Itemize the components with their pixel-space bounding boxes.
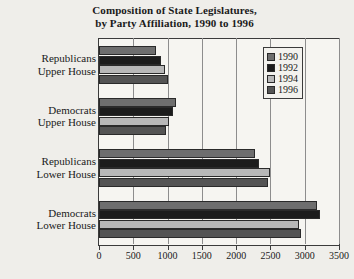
category-label-line: Lower House	[0, 168, 96, 181]
bar	[99, 107, 173, 116]
legend-item: 1990	[267, 51, 298, 62]
legend-label: 1994	[278, 73, 298, 84]
bar	[99, 75, 168, 84]
category-label-line: Upper House	[0, 65, 96, 78]
chart-legend: 1990199219941996	[263, 47, 303, 99]
category-label: DemocratsLower House	[0, 207, 96, 232]
legend-item: 1992	[267, 62, 298, 73]
bar	[99, 56, 161, 65]
x-tick-label: 3500	[319, 250, 354, 261]
legend-swatch	[267, 53, 275, 61]
category-label: RepublicansLower House	[0, 155, 96, 180]
bar	[99, 201, 317, 210]
chart-title-line-1: Composition of State Legislatures,	[0, 4, 349, 17]
category-label-line: Democrats	[0, 104, 96, 117]
bar	[99, 178, 268, 187]
bar	[99, 117, 169, 126]
chart-title: Composition of State Legislatures, by Pa…	[0, 4, 349, 30]
bar	[99, 149, 255, 158]
bar	[99, 229, 301, 238]
bar	[99, 168, 270, 177]
legend-label: 1990	[278, 51, 298, 62]
category-label: RepublicansUpper House	[0, 52, 96, 77]
legend-swatch	[267, 64, 275, 72]
bar	[99, 220, 299, 229]
category-label-line: Republicans	[0, 155, 96, 168]
category-label-line: Upper House	[0, 116, 96, 129]
bar	[99, 98, 176, 107]
bar	[99, 65, 165, 74]
category-label-line: Republicans	[0, 52, 96, 65]
bar	[99, 46, 156, 55]
chart-title-line-2: by Party Affiliation, 1990 to 1996	[0, 17, 349, 30]
bar	[99, 210, 320, 219]
legend-swatch	[267, 75, 275, 83]
category-label-line: Lower House	[0, 219, 96, 232]
category-label: DemocratsUpper House	[0, 104, 96, 129]
legend-label: 1996	[278, 84, 298, 95]
legend-item: 1996	[267, 84, 298, 95]
bar	[99, 126, 166, 135]
legend-label: 1992	[278, 62, 298, 73]
legend-swatch	[267, 86, 275, 94]
category-label-line: Democrats	[0, 207, 96, 220]
bar	[99, 159, 259, 168]
legend-item: 1994	[267, 73, 298, 84]
